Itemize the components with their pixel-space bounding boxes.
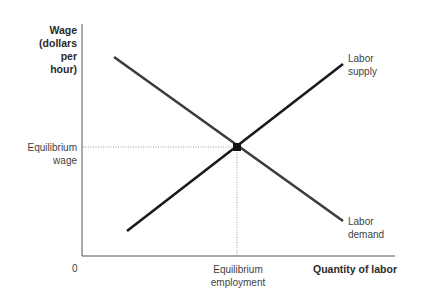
equilibrium-employment-label: Equilibrium employment: [197, 263, 279, 289]
labor-supply-label-line: supply: [348, 65, 377, 78]
y-axis-label-line: (dollars: [20, 37, 77, 50]
equilibrium-employment-label-line: employment: [197, 276, 279, 289]
y-axis-label-line: per: [20, 50, 77, 63]
x-axis-label: Quantity of labor: [313, 263, 397, 275]
equilibrium-employment-label-line: Equilibrium: [197, 263, 279, 276]
labor-supply-label-line: Labor: [348, 52, 377, 65]
labor-demand-label: Labor demand: [348, 215, 384, 241]
labor-demand-label-line: demand: [348, 228, 384, 241]
y-axis-label-line: Wage: [20, 24, 77, 37]
equilibrium-wage-label: Equilibrium wage: [10, 141, 77, 167]
origin-label: 0: [72, 263, 78, 274]
labor-market-chart: Wage (dollars per hour) Equilibrium wage…: [0, 0, 427, 303]
labor-demand-curve: [114, 57, 343, 221]
labor-supply-label: Labor supply: [348, 52, 377, 78]
equilibrium-wage-label-line: wage: [10, 154, 77, 167]
equilibrium-point: [233, 143, 241, 151]
equilibrium-wage-label-line: Equilibrium: [10, 141, 77, 154]
labor-demand-label-line: Labor: [348, 215, 384, 228]
y-axis-label-line: hour): [20, 63, 77, 76]
y-axis-label: Wage (dollars per hour): [20, 24, 77, 76]
